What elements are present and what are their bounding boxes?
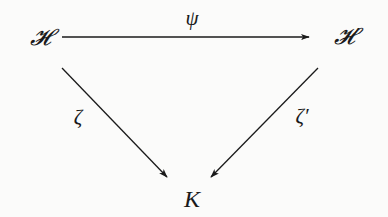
arrows-layer: [0, 0, 388, 217]
label-psi: ψ: [185, 8, 198, 29]
node-H-prime: 𝓗′: [334, 25, 360, 48]
label-zeta: ζ: [74, 107, 83, 128]
commutative-diagram: 𝓗 𝓗′ K ψ ζ ζ′: [0, 0, 388, 217]
label-zeta-prime: ζ′: [295, 106, 308, 127]
node-K: K: [184, 187, 200, 211]
node-H: 𝓗: [30, 26, 51, 49]
